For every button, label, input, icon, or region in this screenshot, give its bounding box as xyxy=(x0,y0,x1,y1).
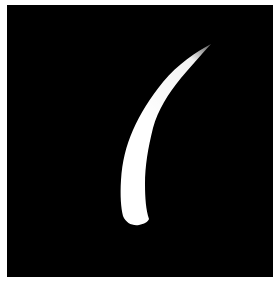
horn-silhouette xyxy=(0,0,277,285)
horn-shape xyxy=(121,44,211,225)
image-canvas xyxy=(0,0,277,285)
